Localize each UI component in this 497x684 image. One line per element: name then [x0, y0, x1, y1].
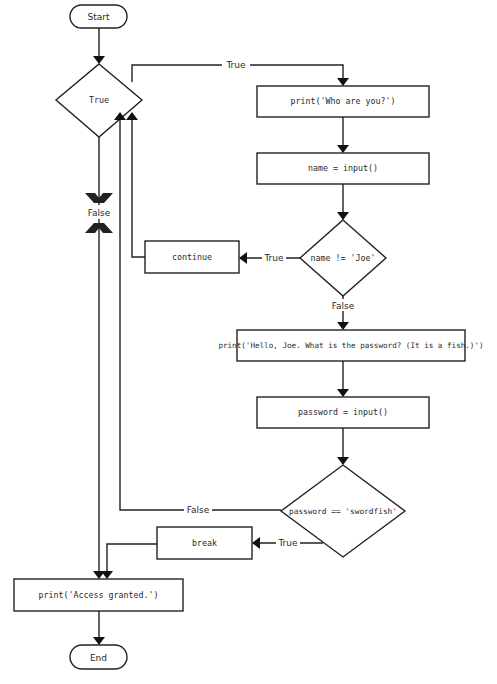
password-input-box: password = input(): [257, 397, 429, 428]
name-input-box: name = input(): [257, 153, 429, 184]
loop-condition-diamond: True: [56, 64, 142, 137]
edge-label-loop-true: True: [225, 60, 246, 70]
edge-label-name-true: True: [263, 253, 284, 263]
flowchart-canvas: Start True True print('Who are you?') na…: [0, 0, 497, 684]
print-granted-box: print('Access granted.'): [14, 579, 183, 611]
print-granted-label: print('Access granted.'): [39, 590, 159, 600]
print-hello-label: print('Hello, Joe. What is the password?…: [218, 341, 483, 350]
edge-label-name-false: False: [332, 301, 355, 311]
name-input-label: name = input(): [308, 163, 378, 173]
print-who-label: print('Who are you?'): [291, 96, 396, 106]
end-terminal: End: [70, 645, 127, 669]
break-box: break: [157, 527, 252, 559]
end-label: End: [90, 653, 107, 663]
edge-label-password-true: True: [277, 538, 298, 548]
name-check-label: name != 'Joe': [311, 253, 376, 263]
arrow-break-to-granted: [107, 544, 157, 578]
print-who-box: print('Who are you?'): [257, 86, 429, 117]
continue-label: continue: [172, 252, 212, 262]
start-terminal: Start: [70, 5, 127, 28]
arrow-continue-back: [132, 113, 145, 257]
continue-box: continue: [145, 241, 239, 273]
password-input-label: password = input(): [298, 407, 388, 417]
print-hello-box: print('Hello, Joe. What is the password?…: [218, 330, 483, 361]
password-check-label: password == 'swordfish': [289, 507, 397, 516]
edge-label-password-false: False: [187, 505, 210, 515]
start-label: Start: [88, 12, 110, 22]
edge-label-loop-false: False: [88, 208, 111, 218]
loop-condition-label: True: [89, 95, 109, 105]
break-label: break: [192, 538, 217, 548]
name-check-diamond: name != 'Joe': [300, 220, 386, 296]
